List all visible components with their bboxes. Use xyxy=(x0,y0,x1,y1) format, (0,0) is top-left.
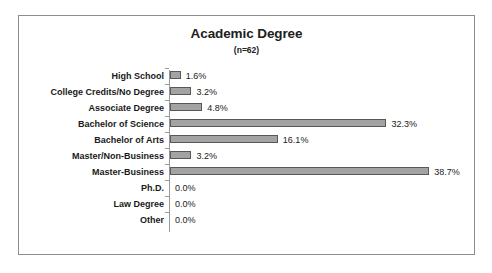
bar xyxy=(170,151,191,159)
category-label: Other xyxy=(0,214,164,226)
bar-value-label: 32.3% xyxy=(391,118,417,130)
bar-row: Associate Degree4.8% xyxy=(19,100,474,116)
bar xyxy=(170,71,181,79)
bar-row: College Credits/No Degree3.2% xyxy=(19,84,474,100)
bar-row: Ph.D.0.0% xyxy=(19,180,474,196)
category-label: Bachelor of Science xyxy=(0,118,164,130)
axis-tick-mark xyxy=(165,212,169,213)
bar-row: Bachelor of Science32.3% xyxy=(19,116,474,132)
bar-value-label: 0.0% xyxy=(175,182,196,194)
bar-value-label: 0.0% xyxy=(175,198,196,210)
bar-row: High School1.6% xyxy=(19,68,474,84)
chart-sample-size: (n=62) xyxy=(19,45,474,55)
bar-row: Other0.0% xyxy=(19,212,474,228)
bar-row: Bachelor of Arts16.1% xyxy=(19,132,474,148)
bar-value-label: 4.8% xyxy=(207,102,228,114)
chart-title: Academic Degree xyxy=(19,26,474,41)
category-label: Bachelor of Arts xyxy=(0,134,164,146)
category-label: Ph.D. xyxy=(0,182,164,194)
category-label: Master/Non-Business xyxy=(0,150,164,162)
axis-tick-mark xyxy=(165,100,169,101)
category-label: Associate Degree xyxy=(0,102,164,114)
axis-tick-mark xyxy=(165,148,169,149)
bar-value-label: 1.6% xyxy=(186,70,207,82)
axis-tick-mark xyxy=(165,196,169,197)
chart-frame: Academic Degree (n=62) High School1.6%Co… xyxy=(18,15,475,255)
plot-area: High School1.6%College Credits/No Degree… xyxy=(19,68,474,243)
axis-tick-mark xyxy=(165,84,169,85)
bar-row: Master/Non-Business3.2% xyxy=(19,148,474,164)
axis-tick-mark xyxy=(165,180,169,181)
axis-tick-mark xyxy=(165,68,169,69)
bar xyxy=(170,167,429,175)
bar xyxy=(170,135,278,143)
bar xyxy=(170,87,191,95)
bar-value-label: 3.2% xyxy=(196,150,217,162)
bar xyxy=(170,103,202,111)
axis-tick-mark xyxy=(165,132,169,133)
category-label: Master-Business xyxy=(0,166,164,178)
category-label: College Credits/No Degree xyxy=(0,86,164,98)
bar xyxy=(170,119,386,127)
bar-value-label: 0.0% xyxy=(175,214,196,226)
bar-row: Law Degree0.0% xyxy=(19,196,474,212)
bar-value-label: 16.1% xyxy=(283,134,309,146)
bar-row: Master-Business38.7% xyxy=(19,164,474,180)
axis-tick-mark xyxy=(165,116,169,117)
bar-value-label: 38.7% xyxy=(434,166,460,178)
axis-tick-mark xyxy=(165,164,169,165)
category-label: Law Degree xyxy=(0,198,164,210)
bar-value-label: 3.2% xyxy=(196,86,217,98)
category-label: High School xyxy=(0,70,164,82)
